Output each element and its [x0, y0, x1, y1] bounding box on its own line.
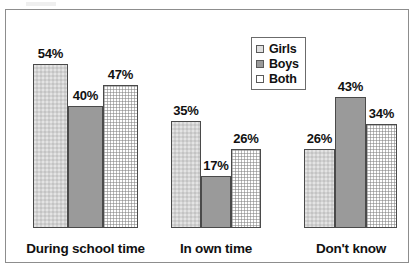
legend-label-boys: Boys — [269, 57, 299, 71]
bar-label-girls-in-own-time: 35% — [169, 103, 203, 118]
category-label-during-school-time: During school time — [15, 241, 156, 256]
bar-both-dont-know[interactable] — [366, 124, 397, 228]
bar-girls-dont-know[interactable] — [304, 149, 335, 228]
legend-swatch-girls-icon — [256, 45, 264, 53]
legend-item-girls[interactable]: Girls — [256, 41, 299, 56]
bar-label-girls-during-school-time: 54% — [33, 46, 68, 61]
bar-label-both-dont-know: 34% — [364, 106, 399, 121]
bar-girls-in-own-time[interactable] — [171, 121, 201, 228]
bar-label-both-in-own-time: 26% — [229, 131, 263, 146]
chart-legend: Girls Boys Both — [251, 37, 306, 90]
bar-label-boys-dont-know: 43% — [333, 79, 368, 94]
bar-label-both-during-school-time: 47% — [103, 67, 138, 82]
bar-boys-dont-know[interactable] — [335, 97, 366, 228]
bar-label-boys-during-school-time: 40% — [68, 88, 103, 103]
bar-both-in-own-time[interactable] — [231, 149, 261, 228]
category-label-dont-know: Don't know — [296, 241, 406, 256]
chart-figure: 54% 40% 47% During school time 35% 17% 2… — [0, 0, 419, 275]
legend-label-girls: Girls — [269, 42, 297, 56]
bar-both-during-school-time[interactable] — [103, 85, 138, 228]
bar-label-girls-dont-know: 26% — [302, 131, 337, 146]
bar-label-boys-in-own-time: 17% — [199, 158, 233, 173]
chart-frame: 54% 40% 47% During school time 35% 17% 2… — [5, 9, 409, 263]
legend-item-both[interactable]: Both — [256, 71, 299, 86]
bar-boys-during-school-time[interactable] — [68, 106, 103, 228]
legend-swatch-both-icon — [256, 75, 264, 83]
legend-swatch-boys-icon — [256, 60, 264, 68]
bar-boys-in-own-time[interactable] — [201, 176, 231, 228]
plot-area: 54% 40% 47% During school time 35% 17% 2… — [6, 10, 410, 264]
legend-item-boys[interactable]: Boys — [256, 56, 299, 71]
bar-girls-during-school-time[interactable] — [33, 64, 68, 228]
scan-artifact — [26, 2, 56, 6]
category-label-in-own-time: In own time — [161, 241, 271, 256]
legend-label-both: Both — [269, 72, 297, 86]
